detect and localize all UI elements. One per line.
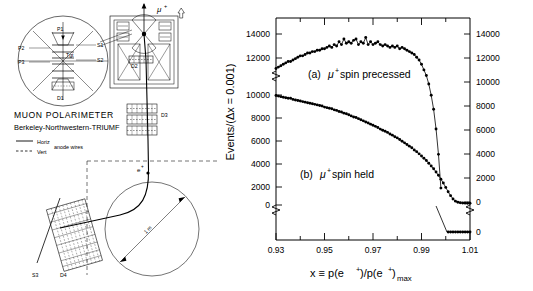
chamber-D4 <box>46 199 102 272</box>
data-point <box>299 100 302 103</box>
data-point <box>296 56 299 59</box>
radius-label: 1 m <box>142 224 152 234</box>
series-line <box>276 38 441 189</box>
data-point <box>352 39 355 42</box>
data-point <box>328 45 331 48</box>
data-point <box>430 165 433 168</box>
data-point <box>282 96 285 99</box>
label-P2: P2 <box>18 45 24 51</box>
ytick-label-12000: 12000 <box>246 53 270 63</box>
curve-b-sup: + <box>327 167 331 174</box>
data-point <box>391 134 394 137</box>
data-point <box>369 40 372 43</box>
data-point <box>330 46 333 49</box>
data-point <box>318 49 321 52</box>
data-point <box>386 131 389 134</box>
data-point <box>301 54 304 57</box>
data-point <box>425 74 428 77</box>
curve-a-sup: + <box>335 67 339 74</box>
data-point <box>313 50 316 53</box>
x-axis-label-lead: x ≡ p(e <box>310 267 344 279</box>
x-axis-ticks <box>276 233 470 240</box>
data-point <box>338 40 341 43</box>
data-point <box>422 157 425 160</box>
data-point <box>435 171 438 174</box>
data-point <box>418 152 421 155</box>
ytick-label-6000: 6000 <box>251 136 270 146</box>
data-point <box>403 141 406 144</box>
data-point <box>313 103 316 106</box>
data-point <box>294 57 297 60</box>
right-ytick-label-8000: 8000 <box>476 101 495 111</box>
data-point <box>279 64 282 67</box>
data-point <box>396 45 399 48</box>
curve-b-tail: spin held <box>332 168 374 180</box>
data-point <box>284 61 287 64</box>
data-point <box>277 95 280 98</box>
label-S1: S1 <box>97 42 103 48</box>
data-point <box>347 40 350 43</box>
data-point <box>420 63 423 66</box>
label-P3: P3 <box>18 59 24 65</box>
data-point <box>318 104 321 107</box>
xtick-label-2: 0.97 <box>365 245 382 255</box>
curve-b-mu: μ <box>319 168 326 180</box>
data-point <box>306 101 309 104</box>
diagram-legend: Horiz Vert anode wires <box>16 139 83 155</box>
data-point <box>439 178 442 181</box>
data-point <box>345 42 348 45</box>
data-point <box>379 43 382 46</box>
x-axis-label-tail: ) <box>392 267 396 279</box>
data-point <box>401 46 404 49</box>
data-point <box>456 201 459 204</box>
data-point <box>439 187 442 190</box>
data-point <box>333 43 336 46</box>
data-point <box>415 56 418 59</box>
x-axis-top-ticks <box>300 18 446 25</box>
diagram-title-line2: Berkeley-Northwestern-TRIUMF <box>14 123 120 132</box>
data-point <box>422 68 425 71</box>
label-D3: D3 <box>161 112 168 118</box>
data-point <box>398 47 401 50</box>
data-point <box>325 106 328 109</box>
data-point <box>376 40 379 43</box>
spectrum-chart-panel: 14000 12000 10000 8000 6000 4000 2000 0 … <box>212 0 533 291</box>
data-point <box>410 146 413 149</box>
x-axis-label-mid: )/p(e <box>360 267 383 279</box>
data-point <box>430 94 433 97</box>
right-ytick-label-10000: 10000 <box>476 77 500 87</box>
data-point <box>355 38 358 41</box>
data-point <box>359 40 362 43</box>
data-point <box>309 52 312 55</box>
label-Tgt: Tgt <box>66 52 74 58</box>
data-point <box>386 45 389 48</box>
legend-label-vert: Vert <box>37 149 47 155</box>
data-point <box>435 128 438 131</box>
right-ytick-label-12000: 12000 <box>476 53 500 63</box>
data-point <box>323 47 326 50</box>
curve-a-mu: μ <box>327 68 334 80</box>
data-point <box>311 102 314 105</box>
data-point <box>415 150 418 153</box>
right-tick-labels: 14000 12000 10000 8000 6000 4000 2000 0 … <box>476 29 500 237</box>
label-D4: D4 <box>60 272 67 278</box>
data-point <box>350 42 353 45</box>
series-b-tail-datapoints <box>436 206 471 233</box>
data-point <box>309 102 312 105</box>
data-point <box>323 106 326 109</box>
data-point <box>425 159 428 162</box>
right-ytick-label-4000: 4000 <box>476 149 495 159</box>
data-point <box>372 43 375 46</box>
data-point <box>406 143 409 146</box>
data-point <box>408 145 411 148</box>
data-point <box>398 138 401 141</box>
data-point <box>469 202 472 205</box>
data-point <box>316 103 319 106</box>
data-point <box>444 186 447 189</box>
series-a-datapoints <box>275 36 443 189</box>
ytick-label-2000: 2000 <box>251 182 270 192</box>
right-ytick-label-2000: 2000 <box>476 173 495 183</box>
data-point <box>374 42 377 45</box>
xtick-label-3: 0.99 <box>413 245 430 255</box>
muon-beam-label: μ + <box>156 3 167 14</box>
